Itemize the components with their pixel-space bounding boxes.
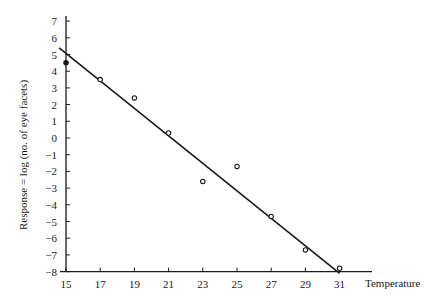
y-tick-label: 6	[52, 32, 58, 44]
data-point	[64, 61, 68, 65]
y-tick-label: 0	[52, 132, 58, 144]
y-tick-label: −6	[45, 232, 57, 244]
x-tick-label: 19	[129, 278, 141, 290]
y-tick-label: −1	[45, 149, 57, 161]
y-tick-label: −7	[45, 249, 57, 261]
y-tick-label: 3	[52, 82, 58, 94]
x-tick-label: 25	[232, 278, 244, 290]
data-point	[166, 131, 170, 135]
data-point	[132, 96, 136, 100]
data-point	[201, 179, 205, 183]
data-point	[98, 77, 102, 81]
y-tick-label: 2	[52, 99, 58, 111]
x-tick-label: 27	[266, 278, 278, 290]
data-point	[269, 214, 273, 218]
y-tick-label: −2	[45, 165, 57, 177]
data-point	[303, 248, 307, 252]
scatter-chart: 76543210−1−2−3−4−5−6−7−8 151719212325272…	[0, 0, 433, 302]
data-point	[235, 164, 239, 168]
y-tick-label: −4	[45, 199, 57, 211]
data-point	[337, 266, 341, 270]
x-tick-label: 23	[197, 278, 209, 290]
y-axis-title: Response = log (no. of eye facets)	[17, 80, 30, 230]
y-tick-label: −3	[45, 182, 57, 194]
x-axis: 151719212325272931	[60, 268, 372, 290]
x-tick-label: 21	[163, 278, 174, 290]
y-tick-label: −5	[45, 216, 57, 228]
x-tick-label: 17	[95, 278, 107, 290]
data-points	[64, 61, 342, 271]
x-tick-label: 31	[334, 278, 345, 290]
y-tick-label: 7	[52, 15, 58, 27]
x-tick-label: 15	[61, 278, 73, 290]
x-tick-label: 29	[300, 278, 312, 290]
y-tick-label: 4	[52, 65, 58, 77]
y-tick-label: −8	[45, 266, 57, 278]
y-tick-label: 5	[52, 49, 58, 61]
x-axis-title: Temperature	[365, 277, 421, 289]
y-tick-label: 1	[52, 115, 58, 127]
